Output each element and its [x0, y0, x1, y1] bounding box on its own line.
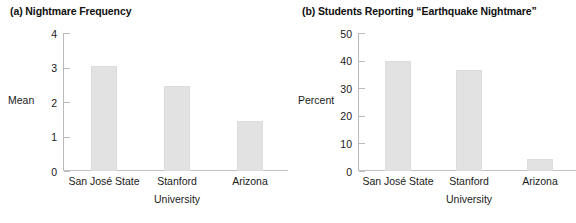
category-label: Stanford — [449, 175, 489, 187]
panel-b-plot-area: 01020304050 San José StateStanfordArizon… — [358, 33, 573, 171]
chart-panel-a: (a) Nightmare Frequency Mean 01234 San J… — [0, 0, 290, 223]
panel-b-y-axis-title: Percent — [298, 94, 334, 106]
bar — [91, 66, 117, 171]
panel-a-bars — [63, 33, 285, 171]
bar — [385, 61, 411, 171]
category-label: Arizona — [522, 175, 558, 187]
panel-b-title: (b) Students Reporting “Earthquake Night… — [302, 5, 537, 17]
bar — [527, 159, 553, 171]
y-tick-label: 50 — [340, 28, 352, 40]
panel-b-bars — [358, 33, 573, 171]
y-tick-mark — [64, 171, 70, 172]
y-tick-label: 10 — [340, 138, 352, 150]
y-tick-label: 2 — [51, 97, 57, 109]
y-tick: 0 — [63, 171, 71, 172]
category-label: San José State — [68, 175, 139, 187]
y-tick-label: 20 — [340, 110, 352, 122]
panel-a-x-axis-title: University — [154, 193, 200, 205]
category-label: San José State — [362, 175, 433, 187]
category-label: Stanford — [157, 175, 197, 187]
bar — [164, 86, 190, 171]
y-tick-label: 0 — [346, 166, 352, 178]
bar — [456, 70, 482, 171]
y-tick-label: 1 — [51, 131, 57, 143]
y-tick-label: 3 — [51, 62, 57, 74]
y-tick-label: 0 — [51, 166, 57, 178]
chart-panel-b: (b) Students Reporting “Earthquake Night… — [290, 0, 573, 223]
panel-a-title: (a) Nightmare Frequency — [10, 5, 131, 17]
category-label: Arizona — [232, 175, 268, 187]
panel-a-y-axis-title: Mean — [8, 94, 34, 106]
y-tick: 0 — [358, 171, 366, 172]
y-tick-mark — [359, 171, 365, 172]
panel-b-x-axis-title: University — [446, 193, 492, 205]
bar — [237, 121, 263, 171]
y-tick-label: 30 — [340, 83, 352, 95]
y-tick-label: 40 — [340, 55, 352, 67]
panel-a-plot-area: 01234 San José StateStanfordArizona Univ… — [63, 33, 285, 171]
y-tick-label: 4 — [51, 28, 57, 40]
